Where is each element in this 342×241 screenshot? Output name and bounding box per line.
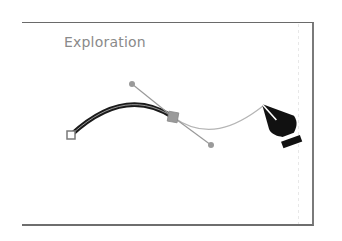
- handle-point-in: [129, 81, 135, 87]
- preview-curve: [173, 106, 263, 129]
- smooth-anchor-point[interactable]: [167, 111, 179, 123]
- pen-tool-icon: [260, 95, 304, 151]
- drawing-canvas[interactable]: [0, 0, 342, 241]
- handle-point-out: [208, 142, 214, 148]
- start-anchor-point[interactable]: [67, 131, 75, 139]
- drawn-path[interactable]: [71, 105, 173, 135]
